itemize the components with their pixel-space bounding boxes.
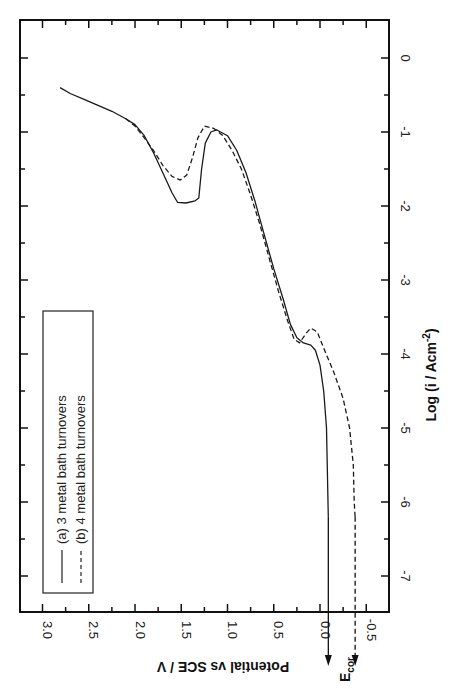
arrow-head-icon <box>325 655 332 666</box>
log-current-tick-label: -6 <box>398 496 413 508</box>
log-current-tick-label: -1 <box>398 126 413 138</box>
potential-tick-label: 0.0 <box>318 621 333 639</box>
potential-tick-label: 1.5 <box>179 621 194 639</box>
potential-tick-label: 3.0 <box>40 621 55 639</box>
log-current-tick-label: -2 <box>398 200 413 212</box>
log-current-tick-label: -3 <box>398 274 413 286</box>
log-current-tick-label: -7 <box>398 570 413 582</box>
legend-item-a: (a) 3 metal bath turnovers <box>54 395 69 544</box>
log-current-tick-labels: 0-1-2-3-4-5-6-7 <box>398 54 413 581</box>
ecor-label: Ecor <box>337 657 356 682</box>
potential-axis-title: Potential vs SCE / V <box>156 659 289 675</box>
potential-tick-label: 2.5 <box>86 621 101 639</box>
log-current-tick-label: -5 <box>398 422 413 434</box>
potential-tick-label: 1.0 <box>225 621 240 639</box>
log-current-axis-title: Log (i / Acm-2) <box>421 328 439 421</box>
log-current-tick-label: -4 <box>398 348 413 360</box>
potential-tick-label: 0.5 <box>271 621 286 639</box>
legend-item-b: (b) 4 metal bath turnovers <box>73 395 88 544</box>
ecor-markers <box>325 517 359 666</box>
polarization-chart: 3.02.52.01.51.00.50.0-0.5 0-1-2-3-4-5-6-… <box>0 0 455 689</box>
plot-series <box>60 88 355 517</box>
log-current-tick-label: 0 <box>398 54 413 61</box>
series-line-1 <box>126 119 355 517</box>
legend: (a) 3 metal bath turnovers (b) 4 metal b… <box>43 311 93 593</box>
potential-tick-label: 2.0 <box>133 621 148 639</box>
potential-tick-label: -0.5 <box>364 619 379 641</box>
